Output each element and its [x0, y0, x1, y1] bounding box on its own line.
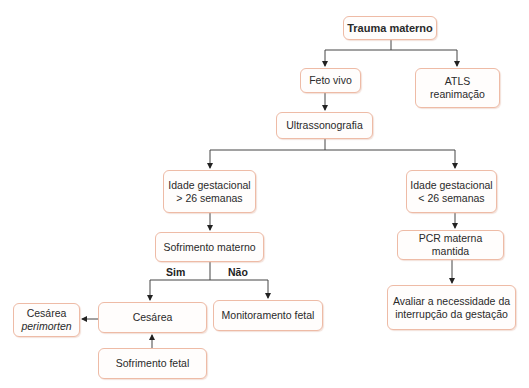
node-avaliar-interrupcao: Avaliar a necessidade da interrupção da … — [387, 285, 516, 330]
node-pcr-materna-mantida: PCR materna mantida — [397, 230, 504, 260]
node-feto-vivo: Feto vivo — [300, 68, 361, 93]
node-cesarea-perimorten: Cesárea perimorten — [13, 303, 80, 337]
edge-label-sim: Sim — [166, 266, 185, 278]
node-sofrimento-materno: Sofrimento materno — [155, 232, 264, 262]
perimorten-line2: perimorten — [21, 320, 71, 333]
node-cesarea: Cesárea — [98, 302, 207, 333]
node-atls-reanimacao: ATLS reanimação — [415, 68, 500, 108]
perimorten-line1: Cesárea — [27, 307, 67, 320]
node-monitoramento-fetal: Monitoramento fetal — [213, 300, 323, 331]
node-idade-gestacional-menor-26: Idade gestacional < 26 semanas — [406, 170, 497, 213]
node-ultrassonografia: Ultrassonografia — [276, 112, 373, 139]
node-trauma-materno: Trauma materno — [343, 16, 437, 40]
node-sofrimento-fetal: Sofrimento fetal — [98, 348, 207, 379]
edge-label-nao: Não — [228, 266, 248, 278]
node-idade-gestacional-maior-26: Idade gestacional > 26 semanas — [163, 170, 256, 213]
